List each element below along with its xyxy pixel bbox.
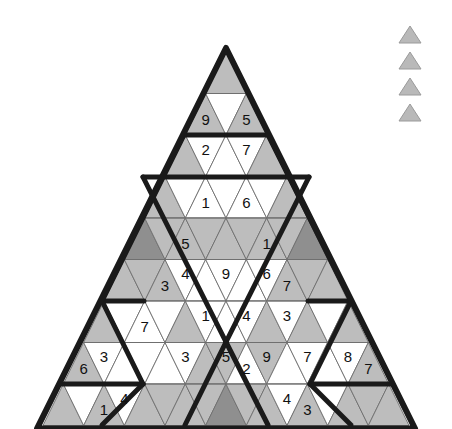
cell-value: 3 <box>161 277 169 294</box>
cell-value: 2 <box>242 360 250 377</box>
cell-value: 2 <box>201 141 209 158</box>
cell-value: 3 <box>100 348 108 365</box>
marker-3-triangle-icon <box>399 78 421 95</box>
cell-value: 6 <box>262 265 270 282</box>
cell-value: 5 <box>181 235 189 252</box>
cell-value: 7 <box>283 277 291 294</box>
cell-value: 1 <box>262 235 270 252</box>
cell-value: 4 <box>120 390 128 407</box>
cell-value: 9 <box>201 111 209 128</box>
legend-markers <box>399 26 421 121</box>
puzzle-canvas: 952716513496771436335297871443 <box>0 0 452 429</box>
cell-value: 4 <box>181 265 189 282</box>
cell-value: 3 <box>181 348 189 365</box>
cell-value: 4 <box>283 390 291 407</box>
marker-2-triangle-icon <box>399 52 421 69</box>
cell-value: 7 <box>140 318 148 335</box>
cell-value: 5 <box>222 348 230 365</box>
cell-value: 8 <box>344 348 352 365</box>
cell-value: 3 <box>303 401 311 418</box>
cell-value: 1 <box>201 194 209 211</box>
cell-value: 5 <box>242 111 250 128</box>
cell-value: 9 <box>262 348 270 365</box>
triangular-sudoku-board[interactable]: 952716513496771436335297871443 <box>0 0 452 429</box>
cell-value: 6 <box>79 360 87 377</box>
marker-4-triangle-icon <box>399 104 421 121</box>
cell-value: 7 <box>242 141 250 158</box>
cell-value: 7 <box>364 360 372 377</box>
cell-value: 3 <box>283 307 291 324</box>
cell-value: 1 <box>201 307 209 324</box>
cell-value: 7 <box>303 348 311 365</box>
cell-value: 4 <box>242 307 250 324</box>
marker-1-triangle-icon <box>399 26 421 43</box>
cell-value: 6 <box>242 194 250 211</box>
cells-layer[interactable] <box>43 52 409 426</box>
cell-value: 1 <box>100 401 108 418</box>
cell-value: 9 <box>222 265 230 282</box>
